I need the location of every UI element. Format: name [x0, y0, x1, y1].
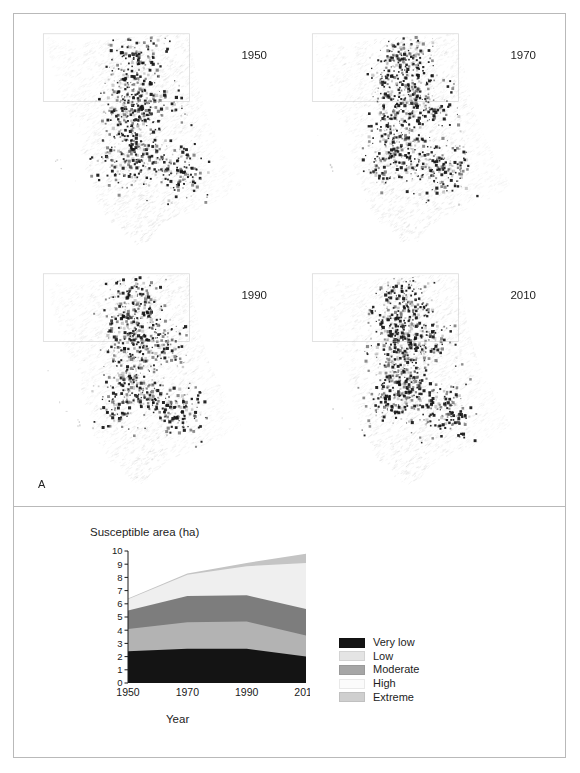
- figure-frame: 1950 1970 1990 2010 A Susceptible area (…: [13, 13, 566, 758]
- chart-plot-area: 0123456789101950197019902010: [100, 547, 310, 707]
- map-year-label: 1950: [241, 49, 267, 61]
- y-tick-label: 1: [117, 664, 122, 675]
- chart-title: Susceptible area (ha): [90, 526, 199, 538]
- legend-label: Very low: [373, 637, 415, 648]
- y-tick-label: 9: [117, 559, 122, 570]
- panel-b-chart: Susceptible area (ha) 012345678910195019…: [14, 507, 565, 758]
- legend-swatch-moderate: [339, 665, 365, 675]
- map-panel-1990: 1990: [19, 259, 291, 502]
- legend-label: Low: [373, 651, 393, 662]
- y-tick-label: 10: [112, 547, 123, 556]
- map-year-label: 2010: [510, 289, 536, 301]
- area-band-very-low: [128, 649, 306, 683]
- x-tick-label: 1990: [235, 686, 259, 698]
- legend-item: Low: [339, 650, 419, 664]
- stacked-area-chart: 0123456789101950197019902010: [100, 547, 310, 707]
- y-tick-label: 6: [117, 598, 122, 609]
- panel-label-a: A: [38, 478, 46, 490]
- y-tick-label: 5: [117, 611, 122, 622]
- x-tick-label: 2010: [294, 686, 310, 698]
- legend-label: High: [373, 678, 396, 689]
- legend-item: High: [339, 677, 419, 691]
- x-axis-label: Year: [166, 713, 189, 725]
- y-tick-label: 2: [117, 651, 122, 662]
- map-year-label: 1970: [510, 49, 536, 61]
- y-tick-label: 8: [117, 572, 122, 583]
- y-tick-label: 4: [117, 625, 122, 636]
- legend-label: Moderate: [373, 664, 419, 675]
- x-tick-label: 1970: [176, 686, 200, 698]
- legend-swatch-very-low: [339, 638, 365, 648]
- y-tick-label: 3: [117, 638, 122, 649]
- legend-label: Extreme: [373, 692, 414, 703]
- map-panel-1950: 1950: [19, 19, 291, 262]
- legend-swatch-high: [339, 679, 365, 689]
- map-panel-2010: 2010: [288, 259, 560, 502]
- map-panel-1970: 1970: [288, 19, 560, 262]
- y-tick-label: 7: [117, 585, 122, 596]
- legend-swatch-extreme: [339, 692, 365, 702]
- map-year-label: 1990: [241, 289, 267, 301]
- x-tick-label: 1950: [116, 686, 140, 698]
- chart-legend: Very lowLowModerateHighExtreme: [339, 636, 419, 704]
- legend-item: Moderate: [339, 663, 419, 677]
- panel-a-maps: 1950 1970 1990 2010 A: [14, 14, 565, 507]
- legend-item: Extreme: [339, 690, 419, 704]
- legend-item: Very low: [339, 636, 419, 650]
- legend-swatch-low: [339, 651, 365, 661]
